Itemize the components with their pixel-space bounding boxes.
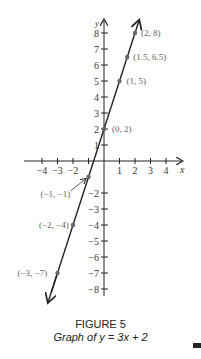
svg-text:5: 5 [94, 76, 99, 87]
figure-caption: Graph of y = 3x + 2 [0, 331, 201, 343]
svg-text:−2: −2 [88, 188, 99, 199]
svg-text:(−1, −1): (−1, −1) [41, 189, 71, 199]
svg-text:x: x [179, 164, 185, 175]
svg-text:1: 1 [117, 165, 122, 176]
svg-text:(−3, −7): (−3, −7) [18, 268, 48, 278]
svg-text:−7: −7 [88, 268, 99, 279]
svg-text:−4: −4 [88, 220, 99, 231]
svg-text:y: y [94, 18, 99, 28]
svg-text:(−2, −4): (−2, −4) [39, 220, 69, 230]
svg-text:4: 4 [94, 92, 99, 103]
svg-text:−3: −3 [52, 165, 63, 176]
svg-text:3: 3 [148, 165, 153, 176]
svg-text:−6: −6 [88, 252, 99, 263]
end-of-section-mark [193, 343, 201, 348]
svg-text:3: 3 [94, 108, 99, 119]
svg-text:−3: −3 [88, 204, 99, 215]
svg-text:6: 6 [94, 60, 99, 71]
svg-text:−5: −5 [88, 236, 99, 247]
svg-text:(2, 8): (2, 8) [141, 28, 161, 38]
svg-text:−8: −8 [88, 284, 99, 295]
svg-text:7: 7 [94, 44, 99, 55]
svg-text:(1, 5): (1, 5) [127, 76, 147, 86]
svg-text:(0, 2): (0, 2) [112, 124, 132, 134]
graph-plot: xy −4−3−2123487654321−2−3−4−5−6−7−8 (−3,… [0, 0, 201, 359]
figure-label: FIGURE 5 [0, 318, 201, 330]
svg-text:−2: −2 [68, 165, 79, 176]
svg-text:8: 8 [94, 28, 99, 39]
svg-text:4: 4 [164, 165, 169, 176]
svg-text:−4: −4 [37, 165, 48, 176]
svg-text:(1.5, 6.5): (1.5, 6.5) [133, 52, 166, 62]
svg-text:2: 2 [133, 165, 138, 176]
svg-text:2: 2 [94, 124, 99, 135]
